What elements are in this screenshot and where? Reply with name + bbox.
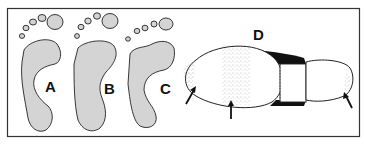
label-c: C [160,80,171,97]
label-a: A [45,78,56,95]
toe-big [47,15,63,30]
forefoot-wear-area [222,45,250,105]
diagram-canvas: A B C D [0,0,365,145]
shank [280,64,306,102]
label-d: D [253,26,264,43]
label-b: B [104,80,115,97]
